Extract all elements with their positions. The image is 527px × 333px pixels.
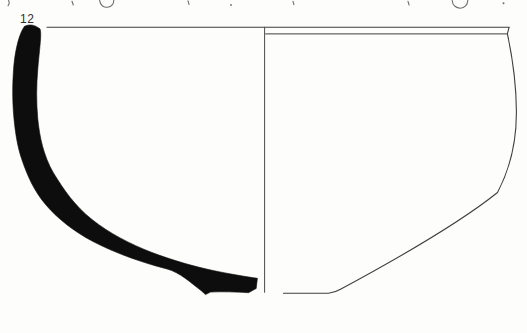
cut-letter-fragment (408, 1, 409, 5)
cut-letter-fragment (72, 1, 73, 5)
cut-letter-fragment (230, 4, 232, 6)
cut-letter-fragment (188, 1, 189, 5)
cut-letter-fragment (452, 0, 468, 8)
exterior-outline (284, 27, 517, 293)
cut-letter-fragment (293, 1, 294, 4)
cut-letter-fragment (503, 2, 505, 4)
section-profile-fill (13, 25, 258, 295)
cropped-caption-fragments (8, 0, 504, 8)
vessel-profile-drawing (0, 0, 527, 333)
cut-letter-fragment (100, 0, 114, 7)
pottery-figure-canvas: 12 (0, 0, 527, 333)
cut-letter-fragment (8, 1, 9, 6)
